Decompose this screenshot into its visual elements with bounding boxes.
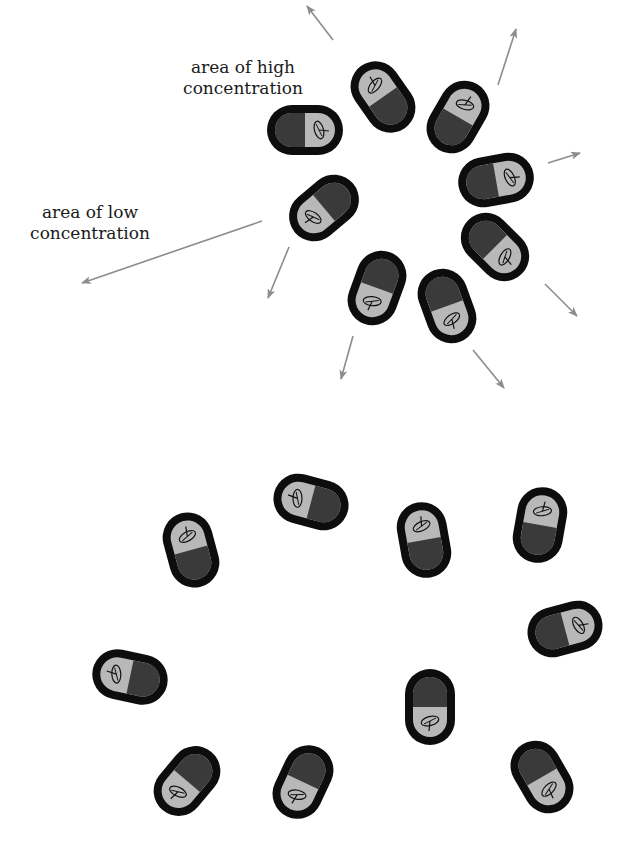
bacterium-cell [522,595,608,663]
bacterium-cell [264,737,341,827]
label-low-line2: concentration [30,223,150,244]
bacterium-cell [501,732,582,823]
diagram-canvas [0,0,628,847]
label-low-concentration: area of low concentration [30,202,150,244]
bottom-cluster-cells [88,468,609,827]
dispersal-arrow [545,284,577,316]
label-high-line1: area of high [183,57,303,78]
bacterium-cell [157,507,225,593]
dispersal-arrow [307,6,333,40]
bacterium-cell [267,105,343,155]
bacterium-cell [417,72,498,163]
bacterium-cell [143,736,230,826]
bacterium-cell [509,483,571,567]
bacterium-cell [411,262,484,351]
label-high-concentration: area of high concentration [183,57,303,99]
top-cluster-cells [267,52,540,351]
bacterium-cell [268,468,354,536]
label-low-line1: area of low [30,202,150,223]
dispersal-arrow [473,350,504,388]
dispersal-arrow [341,336,353,379]
bacterium-cell [450,202,539,291]
label-high-line2: concentration [183,78,303,99]
bacterium-cell [454,149,538,211]
dispersal-arrow [268,247,289,298]
dispersal-arrow [498,29,516,85]
bacterium-cell [341,52,426,143]
chemotaxis-diagram: area of high concentration area of low c… [0,0,628,847]
bacterium-cell [279,164,369,251]
bacterium-cell [393,498,455,582]
bacterium-cell [405,669,455,745]
dispersal-arrow [548,153,580,163]
bacterium-cell [88,645,173,710]
bacterium-cell [341,244,414,333]
